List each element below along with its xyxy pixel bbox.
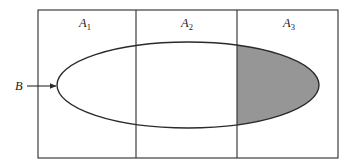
label-B: B xyxy=(15,79,23,93)
diagram-canvas: A1 A2 A3 B xyxy=(0,0,353,168)
label-A3: A3 xyxy=(282,16,295,32)
set-partition-figure: A1 A2 A3 B xyxy=(0,0,353,168)
label-A2-subscript: 2 xyxy=(189,22,193,32)
label-A2: A2 xyxy=(180,16,193,32)
label-A1-subscript: 1 xyxy=(87,22,91,32)
label-A3-subscript: 3 xyxy=(291,22,295,32)
label-A1: A1 xyxy=(78,16,91,32)
